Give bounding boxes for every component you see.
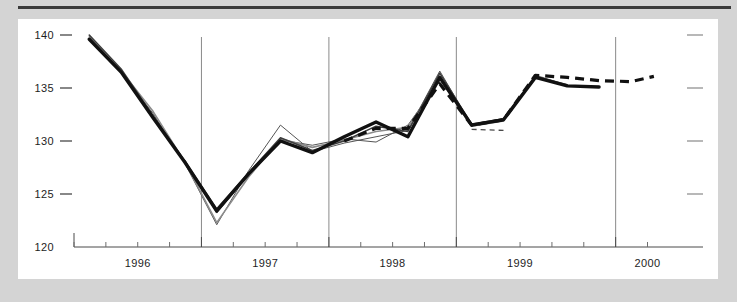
x-tick-label-1999: 1999 bbox=[507, 257, 533, 269]
y-tick-label-130: 130 bbox=[34, 135, 54, 147]
x-axis bbox=[74, 233, 703, 247]
x-tick-label-1997: 1997 bbox=[252, 257, 278, 269]
x-tick-label-2000: 2000 bbox=[634, 257, 660, 269]
x-tick-label-1996: 1996 bbox=[125, 257, 151, 269]
series-line-forecast-thin-dashed bbox=[472, 129, 504, 130]
y-axis-labels: 120125130135140 bbox=[34, 29, 54, 253]
line-chart-svg: 120125130135140 19961997199819992000 bbox=[18, 19, 718, 279]
data-series-group bbox=[89, 35, 654, 225]
top-rule-divider bbox=[18, 6, 731, 9]
axis-spine bbox=[74, 233, 703, 247]
y-tick-label-140: 140 bbox=[34, 29, 54, 41]
y-tick-label-135: 135 bbox=[34, 82, 54, 94]
chart-figure: 120125130135140 19961997199819992000 bbox=[0, 0, 737, 302]
series-line-variant-thin-a bbox=[89, 36, 471, 225]
y-axis-ticks-right bbox=[687, 35, 703, 194]
x-tick-label-1998: 1998 bbox=[380, 257, 406, 269]
series-line-actual-bold bbox=[89, 39, 599, 211]
gridlines-vertical bbox=[201, 37, 615, 247]
plot-area-card: 120125130135140 19961997199819992000 bbox=[18, 19, 718, 279]
y-tick-label-120: 120 bbox=[34, 241, 54, 253]
y-axis-ticks bbox=[60, 35, 72, 194]
x-axis-labels: 19961997199819992000 bbox=[125, 257, 661, 269]
y-tick-label-125: 125 bbox=[34, 188, 54, 200]
series-line-forecast-bold-dashed bbox=[344, 75, 654, 141]
